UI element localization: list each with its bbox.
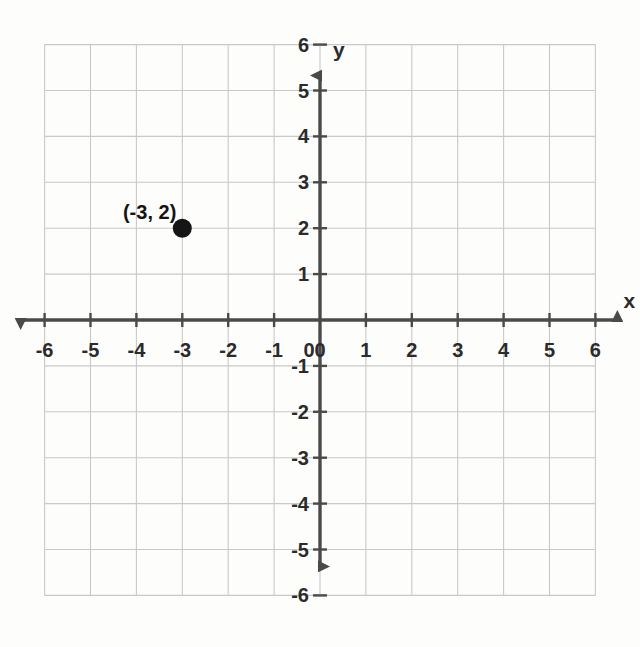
y-tick-label--5: -5 [291, 540, 309, 560]
coordinate-plane-figure: -6-5-4-3-2-10123456654321-1-2-3-4-5-60 x… [0, 0, 640, 647]
x-tick-label-1: 1 [360, 340, 371, 360]
y-tick-label--3: -3 [291, 448, 309, 468]
x-tick-label--6: -6 [36, 340, 54, 360]
x-tick-label-4: 4 [498, 340, 509, 360]
x-tick-label--1: -1 [265, 340, 283, 360]
y-tick-label--4: -4 [291, 494, 309, 514]
y-tick-label-5: 5 [298, 81, 309, 101]
x-tick-label-6: 6 [590, 340, 601, 360]
x-tick-label-3: 3 [452, 340, 463, 360]
x-tick-label-5: 5 [544, 340, 555, 360]
axis-lines [21, 76, 618, 567]
x-tick-label--5: -5 [82, 340, 100, 360]
y-tick-label--6: -6 [291, 585, 309, 605]
point-coordinate-label: (-3, 2) [123, 202, 176, 222]
x-tick-label--2: -2 [219, 340, 237, 360]
x-tick-label-0: 0 [314, 340, 325, 360]
y-tick-label--2: -2 [291, 402, 309, 422]
y-tick-label-1: 1 [298, 264, 309, 284]
x-tick-label--4: -4 [127, 340, 145, 360]
x-tick-label-2: 2 [406, 340, 417, 360]
y-tick-label-6: 6 [298, 35, 309, 55]
x-tick-label--3: -3 [173, 340, 191, 360]
origin-label: 0 [303, 340, 314, 360]
y-tick-label-2: 2 [298, 218, 309, 238]
graph-canvas [0, 0, 640, 647]
y-axis-label: y [333, 39, 345, 60]
y-tick-label-3: 3 [298, 172, 309, 192]
x-axis-label: x [623, 290, 635, 311]
y-tick-label-4: 4 [298, 126, 309, 146]
